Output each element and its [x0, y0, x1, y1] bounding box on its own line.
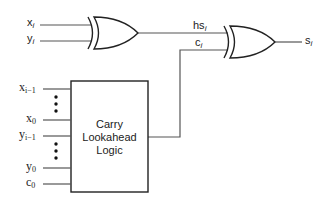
cla-block-label: Carry Lookahead Logic: [71, 118, 148, 157]
label-hsi-base: hs: [193, 19, 205, 31]
label-xi: xi: [27, 17, 34, 30]
ellipsis-dots-x: [54, 95, 57, 112]
label-y-im1-sub: i−1: [25, 133, 36, 142]
label-hsi-sub: i: [205, 24, 207, 33]
cla-line-2: Lookahead: [71, 131, 148, 144]
xor-gate-2: [224, 26, 275, 58]
cla-line-1: Carry: [71, 118, 148, 131]
label-y0-sub: 0: [32, 165, 36, 174]
label-x-im1: xi−1: [19, 81, 36, 95]
label-yi-sub: i: [33, 37, 35, 46]
label-c0: c0: [26, 176, 35, 190]
label-ci: ci: [195, 37, 202, 50]
xor-gate-1: [88, 17, 138, 49]
label-hsi: hsi: [193, 20, 206, 33]
label-y-im1: yi−1: [19, 128, 36, 142]
cla-line-3: Logic: [71, 144, 148, 157]
label-ci-sub: i: [201, 41, 203, 50]
label-yi: yi: [27, 33, 34, 46]
label-x0: x0: [26, 112, 36, 126]
label-c0-sub: 0: [31, 181, 35, 190]
ellipsis-dots-y: [54, 142, 57, 159]
label-x-im1-sub: i−1: [25, 86, 36, 95]
wire-ci: [148, 50, 228, 137]
label-si-sub: i: [311, 39, 313, 48]
label-x0-sub: 0: [32, 117, 36, 126]
label-xi-sub: i: [33, 21, 35, 30]
circuit-diagram: [0, 0, 327, 205]
label-si: si: [305, 35, 312, 48]
label-y0: y0: [26, 160, 36, 174]
